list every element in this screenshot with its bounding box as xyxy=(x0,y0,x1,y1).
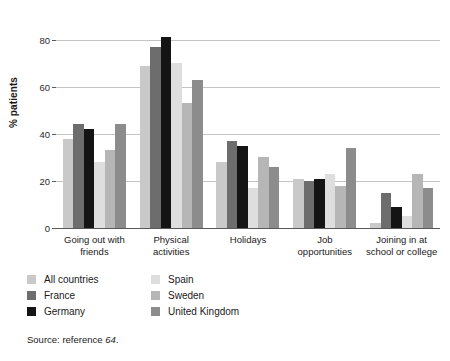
bar xyxy=(115,124,126,228)
x-axis-category-label-line: activities xyxy=(123,246,220,258)
bar-group xyxy=(210,28,287,228)
legend-swatch xyxy=(27,307,36,316)
y-axis-title: % patients xyxy=(8,77,19,128)
bar-group xyxy=(56,28,133,228)
source-prefix: Source: reference xyxy=(27,334,105,345)
bar xyxy=(140,66,151,228)
bar xyxy=(73,124,84,228)
legend-swatch xyxy=(151,275,160,284)
legend-item[interactable]: France xyxy=(27,288,75,302)
chart-legend: All countriesFranceGermanySpainSwedenUni… xyxy=(27,272,327,320)
legend-label: Spain xyxy=(168,274,194,285)
bar xyxy=(269,167,280,228)
legend-label: France xyxy=(44,290,75,301)
legend-item[interactable]: Spain xyxy=(151,272,194,286)
x-axis-category-label-line: Joining in at xyxy=(353,234,450,246)
bar xyxy=(182,103,193,228)
bar-group xyxy=(286,28,363,228)
y-axis-tick-label: 20 xyxy=(39,175,50,186)
legend-label: United Kingdom xyxy=(168,306,239,317)
bar xyxy=(346,148,357,228)
bar-group xyxy=(363,28,440,228)
bar xyxy=(402,216,413,228)
legend-swatch xyxy=(27,291,36,300)
bar xyxy=(216,162,227,228)
y-axis-tick-label: 80 xyxy=(39,34,50,45)
bar xyxy=(171,63,182,228)
bar xyxy=(412,174,423,228)
bar xyxy=(84,129,95,228)
legend-label: All countries xyxy=(44,274,98,285)
legend-item[interactable]: Germany xyxy=(27,304,85,318)
bar xyxy=(293,179,304,228)
bar xyxy=(150,47,161,228)
bar xyxy=(314,179,325,228)
bar xyxy=(304,181,315,228)
x-axis-category-label: Joining in atschool or college xyxy=(353,234,450,257)
bar xyxy=(325,174,336,228)
y-axis-tick-label: 40 xyxy=(39,128,50,139)
bar xyxy=(94,162,105,228)
bar xyxy=(423,188,434,228)
source-suffix: . xyxy=(116,334,119,345)
bar xyxy=(192,80,203,228)
bar xyxy=(258,157,269,228)
legend-label: Sweden xyxy=(168,290,204,301)
legend-item[interactable]: Sweden xyxy=(151,288,204,302)
legend-label: Germany xyxy=(44,306,85,317)
legend-swatch xyxy=(151,307,160,316)
bar xyxy=(248,188,259,228)
bar xyxy=(335,186,346,228)
x-axis-category-label-line: school or college xyxy=(353,246,450,258)
source-reference-number: 64 xyxy=(105,334,116,345)
y-axis-tick-label: 0 xyxy=(45,223,50,234)
plot-area: 020406080 Going out withfriendsPhysicala… xyxy=(56,28,440,228)
legend-item[interactable]: United Kingdom xyxy=(151,304,239,318)
bar xyxy=(237,146,248,228)
source-note: Source: reference 64. xyxy=(27,334,118,345)
legend-item[interactable]: All countries xyxy=(27,272,98,286)
bar xyxy=(381,193,392,228)
bar-group xyxy=(133,28,210,228)
bar xyxy=(161,37,172,228)
chart-figure: % patients 020406080 Going out withfrien… xyxy=(0,0,450,361)
legend-swatch xyxy=(151,291,160,300)
bar xyxy=(227,141,238,228)
bar xyxy=(370,223,381,228)
legend-swatch xyxy=(27,275,36,284)
bar xyxy=(391,207,402,228)
bar xyxy=(105,150,116,228)
bar xyxy=(63,139,74,228)
x-axis-line xyxy=(56,228,440,229)
y-axis-tick-label: 60 xyxy=(39,81,50,92)
